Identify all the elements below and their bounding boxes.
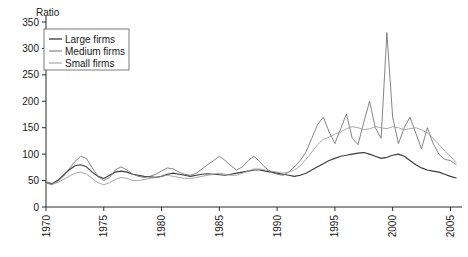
legend-label-small-firms: Small firms — [65, 58, 114, 69]
y-tick-label: 50 — [28, 175, 40, 186]
x-tick-label: 1995 — [329, 215, 340, 238]
y-tick-label: 250 — [22, 69, 39, 80]
legend-label-medium-firms: Medium firms — [65, 46, 125, 57]
x-tick-label: 1970 — [41, 215, 52, 238]
x-tick-label: 1980 — [156, 215, 167, 238]
chart-container: 050100150200250300350 197019751980198519… — [0, 0, 468, 257]
y-tick-label: 150 — [22, 122, 39, 133]
line-chart: 050100150200250300350 197019751980198519… — [0, 0, 468, 257]
x-tick-label: 1975 — [98, 215, 109, 238]
x-tick-label: 1990 — [272, 215, 283, 238]
y-tick-label: 350 — [22, 17, 39, 28]
x-tick-label: 1985 — [214, 215, 225, 238]
y-tick-label: 300 — [22, 43, 39, 54]
legend-label-large-firms: Large firms — [65, 34, 115, 45]
y-tick-label: 200 — [22, 96, 39, 107]
x-tick-label: 2005 — [445, 215, 456, 238]
y-tick-label: 0 — [33, 202, 39, 213]
x-tick-label: 2000 — [387, 215, 398, 238]
chart-legend: Large firmsMedium firmsSmall firms — [44, 29, 129, 70]
y-tick-label: 100 — [22, 149, 39, 160]
y-axis-label: Ratio — [36, 7, 60, 18]
